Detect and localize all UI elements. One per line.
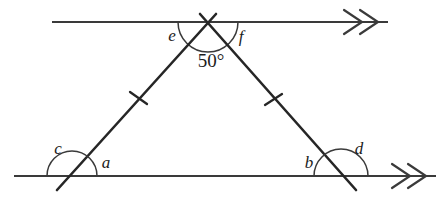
right-leg	[200, 14, 356, 190]
angle-label-e: e	[168, 26, 176, 45]
angle-label-c: c	[54, 139, 62, 158]
angle-value-apex: 50°	[198, 50, 225, 71]
angle-label-b: b	[305, 153, 314, 172]
angle-label-f: f	[239, 27, 246, 46]
left-leg	[57, 14, 216, 190]
geometry-canvas: e f 50° c a b d	[0, 0, 441, 202]
angle-label-d: d	[355, 139, 364, 158]
angle-label-a: a	[102, 153, 111, 172]
geometry-diagram: e f 50° c a b d	[0, 0, 441, 202]
